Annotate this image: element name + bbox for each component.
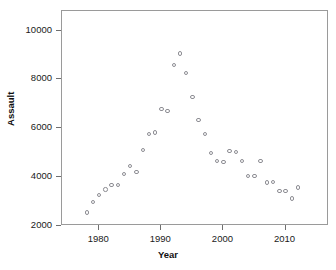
y-axis-tick-label: 10000 [0,25,52,35]
data-point [246,174,250,178]
data-point [290,196,294,200]
data-point [234,150,238,154]
data-point [271,180,275,184]
x-axis-tick-label: 2010 [255,234,315,244]
y-axis-tick [56,127,61,128]
data-point [172,63,176,67]
plot-area [61,10,328,225]
data-point [159,107,163,111]
y-axis-tick-label: 4000 [0,171,52,181]
scatter-chart: 200040006000800010000 1980199020002010 A… [0,0,336,270]
x-axis-tick [285,225,286,230]
data-point [122,172,126,176]
y-axis-tick [56,78,61,79]
data-point [277,189,281,193]
data-point [240,159,244,163]
data-point [141,148,145,152]
data-point [97,193,101,197]
data-point [227,149,231,153]
data-point [265,180,269,184]
y-axis-tick-label: 2000 [0,220,52,230]
data-point [252,174,256,178]
x-axis-title: Year [0,250,336,260]
data-point [103,187,107,191]
x-axis-tick-label: 1980 [68,234,128,244]
data-point [296,185,300,189]
data-point [134,170,138,174]
data-point [283,189,287,193]
x-axis-tick-label: 1990 [130,234,190,244]
y-axis-title: Assault [6,74,16,144]
y-axis-tick [56,30,61,31]
data-point [128,164,132,168]
y-axis-tick [56,225,61,226]
data-point [184,71,188,75]
data-point [165,109,169,113]
data-point [147,132,151,136]
x-axis-tick-label: 2000 [192,234,252,244]
data-point [85,210,89,214]
data-point [203,132,207,136]
x-axis-tick [98,225,99,230]
data-point [258,159,262,163]
x-axis-tick [222,225,223,230]
data-point [196,118,200,122]
data-point [221,160,225,164]
data-point [116,183,120,187]
x-axis-tick [160,225,161,230]
data-point [190,95,194,99]
data-point [109,183,113,187]
data-point [153,130,157,134]
data-points-layer [62,11,327,224]
data-point [178,51,182,55]
data-point [215,159,219,163]
y-axis-tick [56,176,61,177]
data-point [91,200,95,204]
data-point [209,151,213,155]
